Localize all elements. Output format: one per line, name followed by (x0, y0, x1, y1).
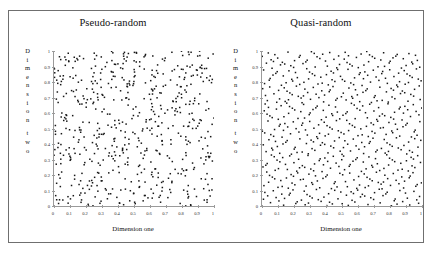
x-axis-tick-mark (102, 205, 103, 208)
y-axis-label-letter: n (21, 116, 34, 125)
x-axis-tick-mark (390, 205, 391, 208)
y-axis-label-letter: w (21, 138, 34, 147)
x-axis-tick-label: 0.6 (350, 211, 364, 217)
x-axis-tick-mark (294, 205, 295, 208)
y-axis-tick-label: 0.3 (245, 158, 258, 163)
y-axis-tick-mark (260, 175, 263, 176)
y-axis-tick-mark (52, 113, 55, 114)
y-axis-tick-label: 0.1 (245, 189, 258, 194)
x-axis-tick-mark (86, 205, 87, 208)
x-axis-ticks-pseudo: 00.10.20.30.40.50.60.70.80.91 (53, 211, 213, 219)
y-axis-label-letter: n (21, 81, 34, 90)
x-axis-label-pseudo: Dimension one (43, 225, 223, 232)
y-axis-tick-label: 0.8 (245, 80, 258, 85)
y-axis-tick-label: 0.2 (245, 173, 258, 178)
y-axis-label-letter: o (229, 107, 242, 116)
y-axis-tick-label: 0 (37, 204, 50, 209)
y-axis-tick-label: 0.4 (37, 142, 50, 147)
y-axis-tick-mark (260, 67, 263, 68)
x-axis-tick-mark (118, 205, 119, 208)
scatter-plot-pseudo-random (53, 51, 214, 207)
x-axis-tick-mark (422, 205, 423, 208)
x-axis-tick-mark (278, 205, 279, 208)
y-axis-tick-label: 0.5 (245, 127, 258, 132)
y-axis-label-letter: D (229, 47, 242, 56)
x-axis-tick-mark (214, 205, 215, 208)
y-axis-tick-mark (52, 144, 55, 145)
y-axis-tick-mark (52, 82, 55, 83)
y-axis-tick-mark (52, 67, 55, 68)
y-axis-label-letter: n (229, 116, 242, 125)
y-axis-tick-label: 0.7 (245, 96, 258, 101)
figure-frame: Pseudo-random Quasi-random Dimensiontwo … (8, 10, 424, 243)
figure-root: Pseudo-random Quasi-random Dimensiontwo … (0, 0, 436, 254)
y-axis-label-letter: o (21, 107, 34, 116)
y-axis-tick-mark (260, 129, 263, 130)
x-axis-tick-label: 0.1 (270, 211, 284, 217)
x-axis-ticks-quasi: 00.10.20.30.40.50.60.70.80.91 (261, 211, 421, 219)
x-axis-tick-mark (406, 205, 407, 208)
y-axis-tick-label: 0 (245, 204, 258, 209)
y-axis-tick-label: 0.6 (37, 111, 50, 116)
y-axis-label-letter: i (21, 56, 34, 65)
x-axis-tick-label: 0 (254, 211, 268, 217)
x-axis-tick-label: 0.7 (366, 211, 380, 217)
y-axis-label-quasi: Dimensiontwo (229, 47, 242, 155)
x-axis-tick-mark (166, 205, 167, 208)
x-axis-tick-label: 0.9 (398, 211, 412, 217)
x-axis-tick-mark (198, 205, 199, 208)
x-axis-tick-label: 0 (46, 211, 60, 217)
y-axis-label-letter: s (229, 90, 242, 99)
x-axis-tick-label: 0.3 (94, 211, 108, 217)
x-axis-tick-mark (326, 205, 327, 208)
y-axis-label-letter: i (21, 99, 34, 108)
y-axis-tick-mark (260, 160, 263, 161)
x-axis-tick-label: 0.8 (382, 211, 396, 217)
y-axis-label-letter: D (21, 47, 34, 56)
panel-title-pseudo: Pseudo-random (9, 17, 217, 28)
y-axis-label-letter: o (229, 147, 242, 156)
y-axis-tick-label: 0.8 (37, 80, 50, 85)
y-axis-tick-mark (260, 51, 263, 52)
y-axis-tick-label: 0.2 (37, 173, 50, 178)
y-axis-tick-mark (52, 160, 55, 161)
x-axis-tick-label: 0.2 (286, 211, 300, 217)
x-axis-tick-label: 0.2 (78, 211, 92, 217)
y-axis-label-letter: n (229, 81, 242, 90)
x-axis-tick-mark (150, 205, 151, 208)
y-axis-tick-mark (260, 82, 263, 83)
y-axis-label-letter: w (229, 138, 242, 147)
y-axis-tick-mark (260, 98, 263, 99)
y-axis-tick-label: 1 (37, 49, 50, 54)
x-axis-tick-label: 0.4 (318, 211, 332, 217)
x-axis-tick-mark (358, 205, 359, 208)
y-axis-label-letter: e (229, 73, 242, 82)
y-axis-tick-label: 0.9 (245, 65, 258, 70)
x-axis-tick-mark (70, 205, 71, 208)
scatter-points-layer (54, 51, 214, 206)
x-axis-tick-mark (342, 205, 343, 208)
y-axis-tick-label: 0.1 (37, 189, 50, 194)
x-axis-tick-label: 0.3 (302, 211, 316, 217)
x-axis-tick-label: 0.6 (142, 211, 156, 217)
x-axis-tick-label: 0.1 (62, 211, 76, 217)
y-axis-tick-label: 1 (245, 49, 258, 54)
x-axis-tick-label: 0.8 (174, 211, 188, 217)
x-axis-tick-label: 0.4 (110, 211, 124, 217)
y-axis-label-letter: m (21, 64, 34, 73)
x-axis-tick-mark (182, 205, 183, 208)
y-axis-tick-mark (260, 144, 263, 145)
x-axis-tick-label: 0.7 (158, 211, 172, 217)
x-axis-tick-label: 0.5 (334, 211, 348, 217)
y-axis-tick-label: 0.9 (37, 65, 50, 70)
y-axis-label-letter: t (229, 129, 242, 138)
y-axis-tick-label: 0.4 (245, 142, 258, 147)
y-axis-label-letter: i (229, 99, 242, 108)
y-axis-tick-label: 0.5 (37, 127, 50, 132)
x-axis-tick-label: 1 (206, 211, 220, 217)
x-axis-tick-mark (374, 205, 375, 208)
y-axis-label-letter: o (21, 147, 34, 156)
y-axis-tick-mark (260, 206, 263, 207)
x-axis-label-quasi: Dimension one (251, 225, 431, 232)
x-axis-tick-mark (134, 205, 135, 208)
